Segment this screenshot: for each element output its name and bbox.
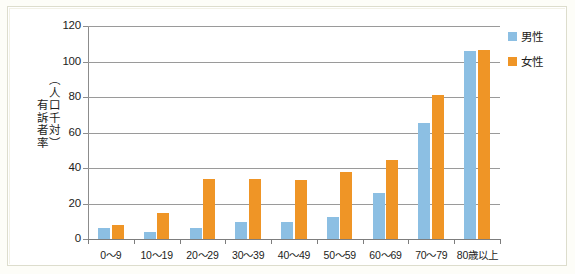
bar-male[interactable]	[98, 228, 110, 239]
x-axis-tick	[317, 239, 318, 244]
bar-male[interactable]	[418, 123, 430, 239]
y-axis-tick-labels: 020406080100120	[48, 0, 81, 274]
x-axis-tick	[500, 239, 501, 244]
chart-screenshot: 有訴者率（人口千対） 020406080100120 0～910～1920～29…	[0, 0, 575, 274]
x-axis-tick	[88, 239, 89, 244]
bar-group	[134, 26, 180, 239]
legend-item-female[interactable]: 女性	[508, 53, 560, 69]
y-axis-tick-label: 0	[75, 232, 81, 244]
x-axis-tick-label: 80歳以上	[444, 247, 510, 262]
bar-male[interactable]	[235, 222, 247, 239]
x-axis-tick	[363, 239, 364, 244]
legend-label-female: 女性	[521, 53, 543, 69]
y-axis-tick-label: 60	[69, 126, 81, 138]
bar-male[interactable]	[190, 228, 202, 239]
bar-male[interactable]	[464, 51, 476, 239]
y-axis-tick-label: 40	[69, 161, 81, 173]
bar-group	[408, 26, 454, 239]
bar-group	[180, 26, 226, 239]
x-axis-tick	[225, 239, 226, 244]
bar-group	[454, 26, 500, 239]
legend-label-male: 男性	[521, 28, 543, 44]
bar-male[interactable]	[373, 193, 385, 239]
bar-female[interactable]	[249, 179, 261, 239]
bar-female[interactable]	[157, 213, 169, 239]
bar-group	[271, 26, 317, 239]
legend-item-male[interactable]: 男性	[508, 28, 560, 44]
y-axis-tick-label: 100	[62, 55, 81, 67]
bar-male[interactable]	[144, 232, 156, 239]
legend-swatch-male-icon	[508, 32, 517, 41]
x-axis-tick	[408, 239, 409, 244]
bar-group	[363, 26, 409, 239]
legend-swatch-female-icon	[508, 57, 517, 66]
y-axis-tick-label: 80	[69, 90, 81, 102]
x-axis-tick	[134, 239, 135, 244]
y-axis-tick-label: 20	[69, 197, 81, 209]
bar-female[interactable]	[112, 225, 124, 239]
x-axis-tick	[180, 239, 181, 244]
y-axis-tick-label: 120	[62, 19, 81, 31]
bar-female[interactable]	[386, 160, 398, 239]
bar-female[interactable]	[295, 180, 307, 239]
x-axis-tick	[271, 239, 272, 244]
bar-female[interactable]	[478, 50, 490, 239]
bar-female[interactable]	[340, 172, 352, 239]
bar-group	[88, 26, 134, 239]
bar-male[interactable]	[327, 217, 339, 239]
bar-male[interactable]	[281, 222, 293, 239]
plot-area	[88, 26, 500, 239]
bar-group	[225, 26, 271, 239]
chart-legend: 男性 女性	[508, 28, 560, 78]
y-axis-title-line1: 有訴者率	[35, 99, 47, 149]
bar-group	[317, 26, 363, 239]
bar-female[interactable]	[203, 179, 215, 239]
x-axis-tick	[454, 239, 455, 244]
bar-female[interactable]	[432, 95, 444, 239]
x-axis-line	[88, 239, 501, 240]
